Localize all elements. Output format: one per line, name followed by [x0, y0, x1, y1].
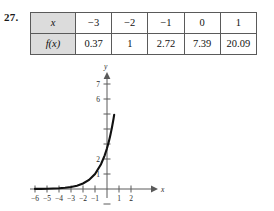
y-axis-arrow-icon: [104, 72, 111, 79]
x-tick-label: −2: [79, 194, 87, 203]
table-cell: 0: [184, 13, 220, 34]
table-cell: 1: [112, 34, 148, 55]
x-tick-label: −1: [91, 194, 99, 203]
table-row: f(x) 0.37 1 2.72 7.39 20.09: [31, 34, 257, 55]
x-tick-label: −6: [31, 194, 39, 203]
table-cell: −2: [112, 13, 148, 34]
table-cell: 7.39: [184, 34, 220, 55]
x-tick-label: −3: [67, 194, 75, 203]
table-row-header-x: x: [31, 13, 76, 34]
x-tick-label: −5: [43, 194, 51, 203]
x-tick-label: 2: [129, 194, 133, 203]
table-cell: −1: [148, 13, 184, 34]
table-row-header-fx: f(x): [31, 34, 76, 55]
value-table: x −3 −2 −1 0 1 f(x) 0.37 1 2.72 7.39 20.…: [30, 12, 257, 55]
y-tick-label: 2: [96, 155, 100, 164]
problem-number: 27.: [4, 11, 18, 23]
x-tick-label: −4: [55, 194, 63, 203]
x-axis-label: x: [160, 185, 165, 194]
x-tick-labels: −6 −5 −4 −3 −2 −1 1 2: [31, 194, 133, 203]
table-cell: 2.72: [148, 34, 184, 55]
table-cell: 1: [220, 13, 256, 34]
y-tick-label: 6: [96, 95, 100, 104]
exponential-graph: x y −6 −5 −4 −3 −2 −1 1 2: [18, 58, 188, 208]
y-axis: y: [103, 62, 110, 198]
table-row: x −3 −2 −1 0 1: [31, 13, 257, 34]
y-axis-label: y: [103, 62, 108, 71]
x-tick-label: 1: [117, 194, 121, 203]
y-tick-label: 7: [96, 80, 100, 89]
table-cell: 20.09: [220, 34, 256, 55]
table-cell: −3: [76, 13, 112, 34]
y-tick-labels: 1 2 6 7: [96, 80, 100, 179]
x-axis-arrow-icon: [151, 186, 158, 193]
graph-svg: x y −6 −5 −4 −3 −2 −1 1 2: [18, 58, 188, 208]
exponential-curve: [35, 115, 114, 189]
table-cell: 0.37: [76, 34, 112, 55]
